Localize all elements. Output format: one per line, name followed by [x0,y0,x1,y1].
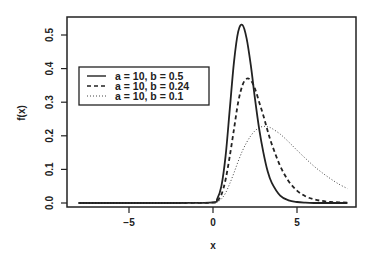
curve-dotted [79,126,348,203]
x-axis: −505 [123,207,300,228]
y-axis: 0.00.10.20.30.40.5 [44,28,67,210]
density-curves [79,25,348,203]
legend: a = 10, b = 0.5 a = 10, b = 0.24 a = 10,… [79,67,209,105]
legend-label-b01: a = 10, b = 0.1 [115,90,183,102]
y-tick-label: 0.3 [44,95,55,109]
y-tick-label: 0.1 [44,162,55,176]
x-tick-label: −5 [123,217,135,228]
y-tick-label: 0.5 [44,28,55,42]
density-chart: 0.00.10.20.30.40.5 −505 x f(x) a = 10, b… [0,0,374,261]
x-tick-label: 5 [294,217,300,228]
y-tick-label: 0.2 [44,128,55,142]
x-axis-label: x [210,240,216,251]
curve-solid [79,25,348,203]
y-axis-label: f(x) [16,105,27,121]
plot-frame [67,17,356,207]
x-tick-label: 0 [210,217,216,228]
y-tick-label: 0.4 [44,61,55,75]
y-tick-label: 0.0 [44,196,55,210]
